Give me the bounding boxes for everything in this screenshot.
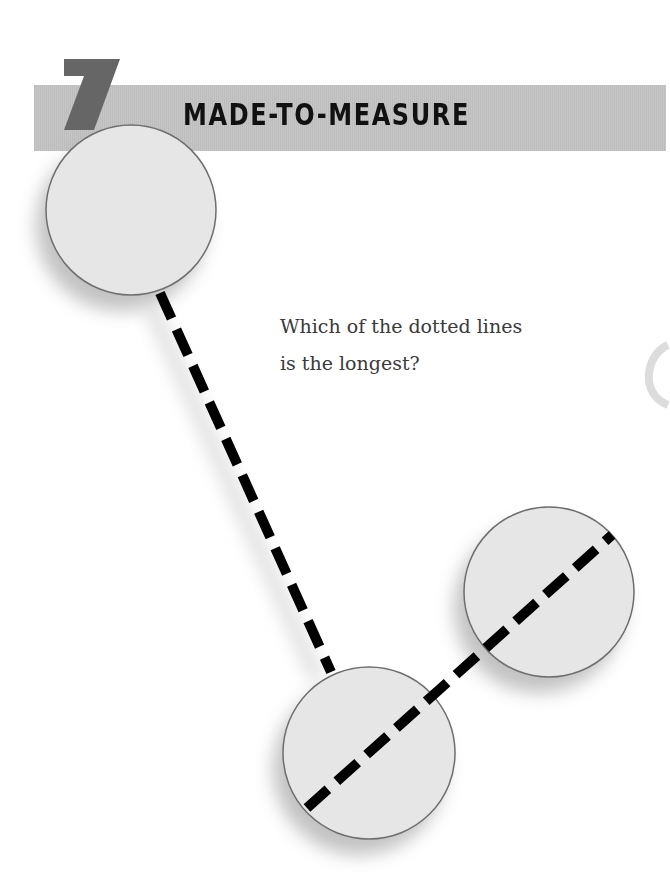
question-text: Which of the dotted lines is the longest… [280, 308, 522, 382]
puzzle-figure [0, 0, 670, 875]
decorative-curve [649, 345, 668, 405]
circle-top-left [46, 125, 216, 295]
question-line-1: Which of the dotted lines [280, 315, 522, 337]
question-line-2: is the longest? [280, 352, 420, 374]
